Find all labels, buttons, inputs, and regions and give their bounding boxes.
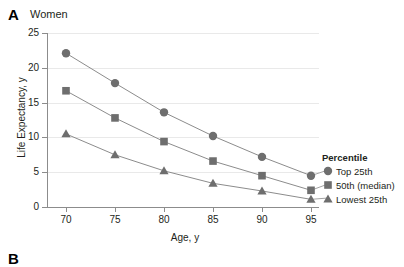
data-point-circle	[209, 132, 217, 140]
data-point-triangle	[323, 194, 332, 202]
x-axis-title: Age, y	[120, 232, 250, 243]
data-point-circle	[160, 108, 168, 116]
circle-marker	[322, 164, 336, 178]
data-point-square	[209, 157, 217, 165]
legend-label: 50th (median)	[336, 180, 395, 191]
series-circle	[62, 49, 315, 180]
series-line	[66, 134, 311, 199]
legend-label: Top 25th	[336, 166, 372, 177]
chart-legend: Percentile Top 25th50th (median)Lowest 2…	[322, 152, 404, 206]
square-marker	[322, 178, 336, 192]
legend-rows: Top 25th50th (median)Lowest 25th	[322, 164, 404, 206]
data-point-circle	[307, 171, 315, 179]
data-point-square	[324, 181, 332, 189]
data-point-square	[62, 87, 70, 95]
data-point-triangle	[110, 150, 119, 158]
data-point-square	[160, 138, 168, 146]
panel-b-letter: B	[8, 250, 19, 267]
data-point-triangle	[61, 129, 70, 137]
data-point-square	[258, 172, 266, 180]
data-point-circle	[111, 79, 119, 87]
legend-item-1: Top 25th	[322, 164, 404, 178]
legend-item-3: Lowest 25th	[322, 192, 404, 206]
data-point-circle	[258, 153, 266, 161]
legend-title: Percentile	[322, 152, 404, 163]
data-point-circle	[62, 49, 70, 57]
series-triangle	[61, 129, 315, 202]
y-axis-title: Life Expectancy, y	[16, 53, 27, 183]
series-square	[62, 87, 315, 194]
triangle-marker	[322, 192, 336, 206]
data-point-circle	[324, 167, 332, 175]
legend-item-2: 50th (median)	[322, 178, 404, 192]
data-point-square	[111, 114, 119, 122]
series-line	[66, 91, 311, 191]
series-line	[66, 53, 311, 175]
data-point-square	[307, 186, 315, 194]
legend-label: Lowest 25th	[336, 194, 387, 205]
